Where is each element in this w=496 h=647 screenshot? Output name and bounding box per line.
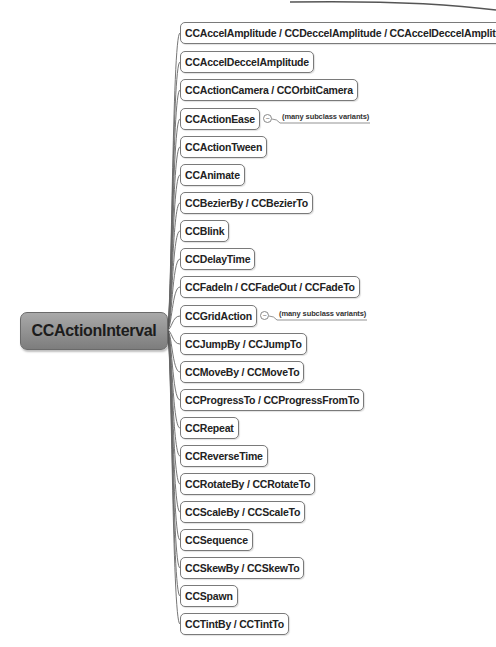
child-node-label: CCActionTween (185, 141, 262, 153)
child-node[interactable]: CCBlink (180, 220, 229, 242)
child-node-label: CCReverseTime (185, 450, 263, 462)
child-node[interactable]: CCJumpBy / CCJumpTo (180, 333, 307, 355)
child-node-label: CCProgressTo / CCProgressFromTo (185, 394, 359, 406)
child-node-label: CCAccelDeccelAmplitude (185, 56, 309, 68)
child-node[interactable]: CCSequence (180, 529, 253, 551)
child-node[interactable]: CCRepeat (180, 417, 239, 439)
child-node[interactable]: CCMoveBy / CCMoveTo (180, 361, 304, 383)
child-node-label: CCSpawn (185, 590, 233, 602)
child-node[interactable]: CCScaleBy / CCScaleTo (180, 501, 305, 523)
child-node[interactable]: CCAccelDeccelAmplitude (180, 51, 314, 73)
child-node[interactable]: CCAnimate (180, 164, 245, 186)
child-node-label: CCBezierBy / CCBezierTo (185, 197, 308, 209)
child-node[interactable]: CCActionCamera / CCOrbitCamera (180, 79, 358, 101)
child-node[interactable]: CCFadeIn / CCFadeOut / CCFadeTo (180, 276, 360, 298)
child-node-label: CCFadeIn / CCFadeOut / CCFadeTo (185, 281, 355, 293)
subclass-note: (many subclass variants) (279, 309, 366, 318)
child-node-label: CCAnimate (185, 169, 240, 181)
collapse-toggle-icon[interactable]: − (263, 114, 272, 123)
child-node-label: CCJumpBy / CCJumpTo (185, 338, 302, 350)
child-node-label: CCRepeat (185, 422, 234, 434)
child-node[interactable]: CCTintBy / CCTintTo (180, 613, 289, 635)
child-node[interactable]: CCSkewBy / CCSkewTo (180, 557, 304, 579)
child-node[interactable]: CCRotateBy / CCRotateTo (180, 473, 315, 495)
child-node-label: CCRotateBy / CCRotateTo (185, 478, 310, 490)
child-node[interactable]: CCGridAction (180, 305, 257, 327)
child-node-label: CCSequence (185, 534, 248, 546)
child-node-label: CCGridAction (185, 310, 252, 322)
child-node[interactable]: CCActionTween (180, 136, 267, 158)
child-node-label: CCScaleBy / CCScaleTo (185, 506, 300, 518)
child-node-label: CCDelayTime (185, 253, 250, 265)
child-node[interactable]: CCReverseTime (180, 445, 268, 467)
child-node[interactable]: CCAccelAmplitude / CCDeccelAmplitude / C… (180, 22, 496, 44)
child-node-label: CCMoveBy / CCMoveTo (185, 366, 299, 378)
child-node-label: CCTintBy / CCTintTo (185, 618, 284, 630)
collapse-toggle-icon[interactable]: − (260, 311, 269, 320)
child-node-label: CCBlink (185, 225, 224, 237)
child-node-label: CCActionCamera / CCOrbitCamera (185, 84, 353, 96)
child-node-label: CCAccelAmplitude / CCDeccelAmplitude / C… (185, 27, 496, 39)
child-node[interactable]: CCBezierBy / CCBezierTo (180, 192, 313, 214)
root-node[interactable]: CCActionInterval (20, 312, 168, 350)
subclass-note: (many subclass variants) (282, 112, 369, 121)
root-label: CCActionInterval (32, 322, 157, 340)
child-node[interactable]: CCProgressTo / CCProgressFromTo (180, 389, 364, 411)
child-node[interactable]: CCSpawn (180, 585, 238, 607)
child-node[interactable]: CCDelayTime (180, 248, 255, 270)
child-node[interactable]: CCActionEase (180, 108, 260, 130)
child-node-label: CCSkewBy / CCSkewTo (185, 562, 299, 574)
child-node-label: CCActionEase (185, 113, 255, 125)
